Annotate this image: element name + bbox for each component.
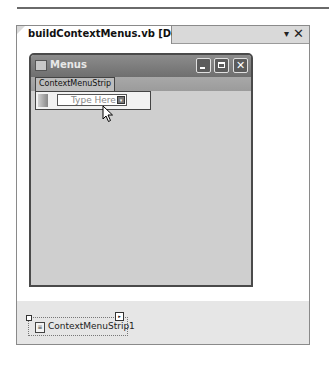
top-divider (17, 7, 329, 9)
form-title: Menus (50, 59, 87, 70)
close-document-icon[interactable]: ✕ (293, 26, 304, 42)
type-here-input[interactable]: Type Here ▾ (57, 94, 127, 106)
context-menu-dropdown: Type Here ▾ (35, 91, 151, 110)
document-tab[interactable]: buildContextMenus.vb [Design]* (17, 26, 172, 44)
smart-tag-glyph: ▸ (118, 313, 121, 319)
smart-tag-icon[interactable]: ▸ (115, 312, 124, 321)
selection-handle[interactable] (26, 315, 32, 321)
context-menu-strip-label[interactable]: ContextMenuStrip (35, 77, 115, 92)
maximize-icon (218, 62, 225, 68)
window-position-dropdown-icon[interactable]: ▾ (284, 28, 289, 40)
designer-document-window: buildContextMenus.vb [Design]* ▾ ✕ Menus… (16, 25, 310, 345)
image-margin (38, 94, 48, 107)
minimize-button[interactable] (196, 58, 211, 73)
form-menus[interactable]: Menus ✕ ContextMenuStrip Type Here ▾ (29, 53, 253, 287)
form-icon (35, 60, 47, 71)
item-type-dropdown-button[interactable]: ▾ (117, 96, 125, 104)
close-icon: ✕ (236, 59, 245, 72)
maximize-button[interactable] (214, 58, 229, 73)
tray-item-label: ContextMenuStrip1 (48, 321, 135, 331)
document-tab-strip: buildContextMenus.vb [Design]* ▾ ✕ (17, 26, 309, 44)
context-menu-strip-icon: ≡ (35, 322, 45, 333)
minimize-icon (200, 67, 205, 69)
chevron-down-icon: ▾ (120, 97, 123, 103)
form-titlebar: Menus ✕ (31, 55, 251, 77)
type-here-placeholder: Type Here (71, 95, 116, 105)
tray-item-contextmenustrip1[interactable]: ▸ ≡ ContextMenuStrip1 (28, 317, 128, 336)
close-button[interactable]: ✕ (233, 58, 248, 73)
component-tray: ▸ ≡ ContextMenuStrip1 (17, 301, 309, 344)
document-tab-title: buildContextMenus.vb [Design]* (28, 28, 211, 39)
mouse-cursor-icon (102, 105, 114, 123)
